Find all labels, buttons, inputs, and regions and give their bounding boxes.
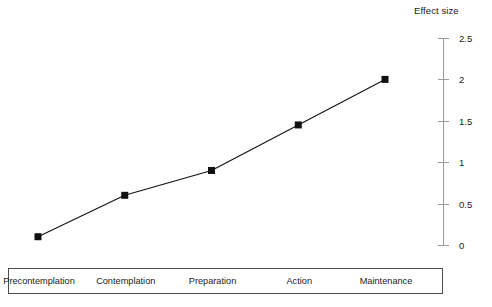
y-axis-tick-label: 1.5 [459,115,472,126]
y-axis-tick-label: 2 [459,74,464,85]
y-axis-tick [438,204,449,205]
data-markers [35,76,389,240]
y-axis-tick [438,162,449,163]
category-label: Maintenance [360,276,413,286]
y-axis-tick [438,245,449,246]
plot-area [0,0,492,307]
y-axis-tick-label: 0 [459,240,464,251]
category-label: Action [286,276,312,286]
data-point-marker [382,76,389,83]
y-axis-tick [438,79,449,80]
category-label: Contemplation [96,276,155,286]
y-axis-tick [438,121,449,122]
chart-figure: Effect size 00.511.522.5 Precontemplatio… [0,0,492,307]
category-label: Precontemplation [3,276,75,286]
y-axis-tick [438,38,449,39]
y-axis-tick-label: 2.5 [459,33,472,44]
category-label: Preparation [189,276,237,286]
y-axis-tick-label: 0.5 [459,198,472,209]
y-axis-tick-label: 1 [459,157,464,168]
y-axis-line [443,38,444,245]
data-point-marker [295,121,302,128]
category-legend-box: PrecontemplationContemplationPreparation… [8,268,443,294]
y-axis-title: Effect size [414,5,459,16]
data-point-marker [121,192,128,199]
data-point-marker [35,233,42,240]
series-line [38,79,385,236]
data-point-marker [208,167,215,174]
